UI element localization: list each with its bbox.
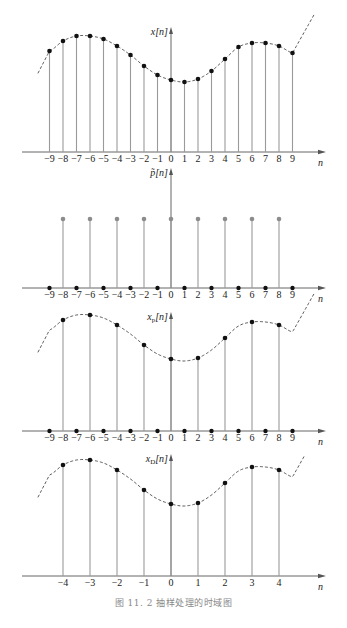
x-axis-label: n <box>318 581 323 592</box>
sample-dot <box>88 458 93 463</box>
tick-label: 0 <box>169 153 174 164</box>
tick-label: 4 <box>223 289 228 300</box>
tick-label: 6 <box>250 432 255 443</box>
tick-label: −2 <box>112 577 123 588</box>
impulse-dot <box>277 217 282 222</box>
sample-dot <box>128 53 133 58</box>
y-axis-arrow-icon <box>169 454 173 461</box>
tick-label: 5 <box>236 289 241 300</box>
sample-dot <box>277 468 282 473</box>
tick-label: −5 <box>98 432 109 443</box>
sample-dot <box>61 39 66 44</box>
tick-label: −8 <box>58 153 69 164</box>
sample-dot <box>142 64 147 69</box>
y-axis-label: p̃[n] <box>149 167 168 178</box>
tick-label: −4 <box>112 153 123 164</box>
tick-label: 5 <box>236 432 241 443</box>
tick-label: −6 <box>85 289 96 300</box>
tick-label: 7 <box>263 289 268 300</box>
sample-dot <box>277 44 282 49</box>
tick-label: 7 <box>263 432 268 443</box>
sample-dot <box>169 78 174 83</box>
tick-label: 3 <box>250 577 255 588</box>
tick-label: −7 <box>71 153 82 164</box>
sample-dot <box>196 356 201 361</box>
sample-dot <box>209 69 214 74</box>
sample-dot <box>61 463 66 468</box>
sample-dot <box>74 34 79 39</box>
impulse-dot <box>88 217 93 222</box>
chart-xD-n: nxD[n]−4−3−2−101234 <box>22 453 326 592</box>
impulse-dot <box>196 217 201 222</box>
tick-label: 8 <box>277 153 282 164</box>
chart-p-tilde-n: np̃[n]−9−8−7−6−5−4−3−2−10123456789 <box>22 167 326 304</box>
sample-dot <box>277 323 282 328</box>
figure-caption: 图 11. 2 抽样处理的时域图 <box>0 596 347 609</box>
tick-label: −6 <box>85 432 96 443</box>
x-axis-label: n <box>318 293 323 304</box>
tick-label: 2 <box>196 153 201 164</box>
envelope-curve <box>38 294 314 361</box>
sample-dot <box>47 49 52 54</box>
tick-label: 5 <box>236 153 241 164</box>
tick-label: −9 <box>44 153 55 164</box>
x-axis-label: n <box>318 157 323 168</box>
sample-dot <box>88 34 93 39</box>
sample-dot <box>115 44 120 49</box>
tick-label: −5 <box>98 153 109 164</box>
tick-label: 2 <box>196 289 201 300</box>
tick-label: −9 <box>44 289 55 300</box>
impulse-dot <box>169 217 174 222</box>
sample-dot <box>196 77 201 82</box>
y-axis-label: xD[n] <box>145 453 168 466</box>
tick-label: 2 <box>223 577 228 588</box>
tick-label: 9 <box>290 289 295 300</box>
y-axis-arrow-icon <box>169 168 173 175</box>
sample-dot <box>250 41 255 46</box>
impulse-dot <box>250 217 255 222</box>
tick-label: 6 <box>250 289 255 300</box>
sample-dot <box>263 41 268 46</box>
chart-xp-n: nxp[n]−9−8−7−6−5−4−3−2−10123456789 <box>22 294 326 447</box>
tick-label: −3 <box>125 153 136 164</box>
impulse-dot <box>61 217 66 222</box>
sample-dot <box>250 465 255 470</box>
tick-label: −8 <box>58 432 69 443</box>
y-axis-arrow-icon <box>169 27 173 34</box>
tick-label: −8 <box>58 289 69 300</box>
tick-label: 1 <box>182 153 187 164</box>
tick-label: 0 <box>169 432 174 443</box>
tick-label: −7 <box>71 432 82 443</box>
sample-dot <box>169 502 174 507</box>
x-axis-arrow-icon <box>318 150 326 154</box>
sample-dot <box>101 37 106 42</box>
y-axis-label: x[n] <box>150 26 168 37</box>
tick-label: 2 <box>196 432 201 443</box>
impulse-dot <box>115 217 120 222</box>
sample-dot <box>115 468 120 473</box>
sample-dot <box>250 320 255 325</box>
tick-label: 4 <box>223 432 228 443</box>
tick-label: 0 <box>169 577 174 588</box>
sample-dot <box>196 501 201 506</box>
tick-label: 3 <box>209 153 214 164</box>
tick-label: 7 <box>263 153 268 164</box>
tick-label: −3 <box>125 289 136 300</box>
sample-dot <box>182 80 187 85</box>
tick-label: −2 <box>139 432 150 443</box>
tick-label: −1 <box>139 577 150 588</box>
tick-label: 6 <box>250 153 255 164</box>
tick-label: −1 <box>152 289 163 300</box>
sample-dot <box>142 488 147 493</box>
tick-label: −1 <box>152 432 163 443</box>
sample-dot <box>155 73 160 78</box>
tick-label: −4 <box>112 289 123 300</box>
sample-dot <box>223 481 228 486</box>
envelope-curve <box>38 15 314 82</box>
sample-dot <box>290 51 295 56</box>
sample-dot <box>223 336 228 341</box>
x-axis-arrow-icon <box>318 574 326 578</box>
tick-label: −5 <box>98 289 109 300</box>
chart-x-n: nx[n]−9−8−7−6−5−4−3−2−10123456789 <box>22 15 326 168</box>
tick-label: 9 <box>290 432 295 443</box>
